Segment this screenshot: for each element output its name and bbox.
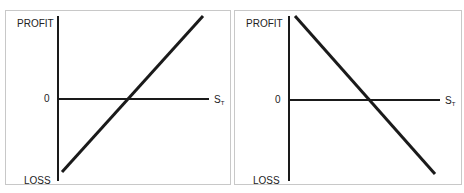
short-forward-payoff-panel: PROFIT 0 LOSS ST [234, 10, 462, 185]
long-payoff-chart [6, 11, 232, 186]
profit-label: PROFIT [246, 19, 283, 29]
x-axis-label: ST [214, 95, 224, 106]
zero-label: 0 [44, 94, 50, 104]
payoff-line-short [295, 16, 435, 174]
short-payoff-chart [235, 11, 463, 186]
x-axis-label-sub: T [452, 101, 456, 107]
x-axis-label-sub: T [221, 100, 225, 106]
loss-label: LOSS [253, 176, 280, 186]
x-axis-label-main: S [214, 94, 221, 105]
profit-label: PROFIT [17, 19, 54, 29]
loss-label: LOSS [24, 176, 51, 186]
zero-label: 0 [275, 95, 281, 105]
x-axis-label-main: S [445, 95, 452, 106]
x-axis-label: ST [445, 96, 455, 107]
long-forward-payoff-panel: PROFIT 0 LOSS ST [5, 10, 231, 185]
payoff-line-long [62, 16, 203, 172]
